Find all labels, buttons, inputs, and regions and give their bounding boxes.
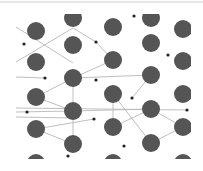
atom-circle [142, 100, 160, 118]
atom-circle [64, 9, 82, 27]
point-dot [22, 42, 25, 45]
atom-circle [64, 69, 82, 87]
point-dot [92, 117, 95, 120]
atom-circle [142, 66, 160, 84]
atom-circle [174, 52, 192, 70]
atom-circle [142, 9, 160, 27]
point-dot [132, 14, 135, 17]
point-dot [94, 78, 97, 81]
atom-circle [104, 51, 122, 69]
atom-circle [27, 53, 45, 71]
bond-line [16, 77, 45, 78]
atom-circle [64, 102, 82, 120]
atom-circle [104, 85, 122, 103]
bond-line [113, 94, 151, 143]
atom-circle [27, 22, 45, 40]
atom-circle [104, 154, 122, 171]
atom-circle [174, 118, 192, 136]
point-dot [66, 154, 69, 157]
atom-circle [104, 118, 122, 136]
atom-circle [27, 88, 45, 106]
atom-circle [142, 134, 160, 152]
atom-circle [104, 18, 122, 36]
atom-circle [174, 154, 192, 171]
atom-lattice-diagram [0, 0, 203, 171]
point-dot [122, 144, 125, 147]
small-points [22, 14, 188, 157]
point-dot [94, 40, 97, 43]
atom-circle [174, 20, 192, 38]
atom-circle [27, 154, 45, 171]
point-dot [43, 76, 46, 79]
point-dot [25, 110, 28, 113]
atom-circle [174, 85, 192, 103]
atom-circle [64, 36, 82, 54]
atom-circle [142, 34, 160, 52]
atom-circle [27, 120, 45, 138]
bond-line [73, 75, 151, 78]
point-dot [185, 108, 188, 111]
point-dot [130, 96, 133, 99]
atom-circles [27, 9, 192, 171]
bond-line [16, 108, 187, 110]
bond-line [16, 117, 73, 118]
atom-circle [64, 135, 82, 153]
point-dot [166, 53, 169, 56]
diagram-frame [0, 0, 203, 171]
